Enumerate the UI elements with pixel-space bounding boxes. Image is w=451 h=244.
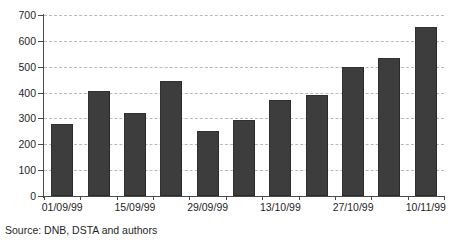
bar bbox=[415, 27, 437, 196]
bar bbox=[342, 67, 364, 196]
bar bbox=[269, 100, 291, 196]
x-axis-tick-label: 10/11/99 bbox=[406, 201, 446, 213]
y-axis-tick-label: 100 bbox=[2, 165, 36, 175]
bar bbox=[197, 131, 219, 196]
x-axis-labels: 01/09/9915/09/9929/09/9913/10/9927/10/99… bbox=[0, 201, 451, 215]
x-axis-tick bbox=[226, 196, 227, 200]
y-axis-tick-label: 700 bbox=[2, 10, 36, 20]
bar bbox=[88, 91, 110, 196]
bar bbox=[306, 95, 328, 196]
x-axis-tick bbox=[189, 196, 190, 200]
bar bbox=[51, 124, 73, 196]
x-axis-tick-label: 01/09/99 bbox=[42, 201, 83, 213]
x-axis-tick bbox=[299, 196, 300, 200]
y-axis-tick-label: 0 bbox=[2, 191, 36, 201]
source-note: Source: DNB, DSTA and authors bbox=[5, 224, 157, 236]
x-axis-tick bbox=[371, 196, 372, 200]
x-axis-tick bbox=[408, 196, 409, 200]
x-axis-tick bbox=[444, 196, 445, 200]
bar bbox=[160, 81, 182, 196]
x-axis-tick-label: 15/09/99 bbox=[114, 201, 155, 213]
bar-series bbox=[44, 15, 444, 196]
x-axis-tick-label: 27/10/99 bbox=[333, 201, 374, 213]
x-axis-tick bbox=[117, 196, 118, 200]
y-axis-tick-label: 500 bbox=[2, 62, 36, 72]
x-axis-tick-label: 13/10/99 bbox=[260, 201, 301, 213]
x-axis-tick bbox=[80, 196, 81, 200]
x-axis-tick bbox=[44, 196, 45, 200]
y-axis-tick-label: 400 bbox=[2, 88, 36, 98]
y-axis-tick-label: 200 bbox=[2, 139, 36, 149]
bar bbox=[233, 120, 255, 196]
bar bbox=[124, 113, 146, 196]
x-axis-tick-label: 29/09/99 bbox=[187, 201, 228, 213]
bar-chart-figure: 7006005004003002001000 01/09/9915/09/992… bbox=[0, 0, 451, 244]
x-axis-tick bbox=[262, 196, 263, 200]
y-axis-tick-label: 300 bbox=[2, 113, 36, 123]
bar bbox=[378, 58, 400, 196]
x-axis-tick bbox=[335, 196, 336, 200]
x-axis-tick bbox=[153, 196, 154, 200]
y-axis-tick-label: 600 bbox=[2, 36, 36, 46]
